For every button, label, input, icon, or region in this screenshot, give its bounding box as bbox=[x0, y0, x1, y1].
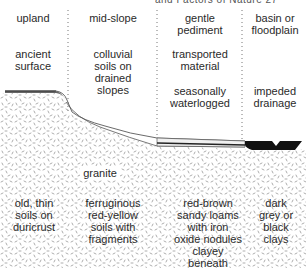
mid-slope-soil-label: ferruginousred-yellowsoils withfragments bbox=[78, 197, 148, 245]
granite-label: granite bbox=[80, 166, 120, 180]
zone-title-upland: upland bbox=[0, 12, 66, 24]
zone-title-basin: basin orfloodplain bbox=[244, 12, 306, 36]
pediment-landform-label: transportedmaterial bbox=[159, 48, 241, 72]
zone-title-mid-slope: mid-slope bbox=[70, 12, 156, 24]
zone-title-gentle-pediment: gentlepediment bbox=[159, 12, 241, 36]
pediment-soil-label: red-brownsandy loamswith ironoxide nodul… bbox=[168, 197, 248, 268]
pediment-drainage-label: seasonallywaterlogged bbox=[159, 85, 241, 109]
basin-soil-label: darkgrey orblackclays bbox=[250, 197, 302, 245]
upland-soil-label: old, thinsoils onduricrust bbox=[2, 197, 66, 233]
mid-slope-landform-label: colluvialsoils ondrainedslopes bbox=[70, 48, 156, 96]
black-clay-deposit bbox=[245, 141, 302, 150]
basin-drainage-label: impededdrainage bbox=[244, 85, 306, 109]
upland-landform-label: ancientsurface bbox=[0, 48, 66, 72]
